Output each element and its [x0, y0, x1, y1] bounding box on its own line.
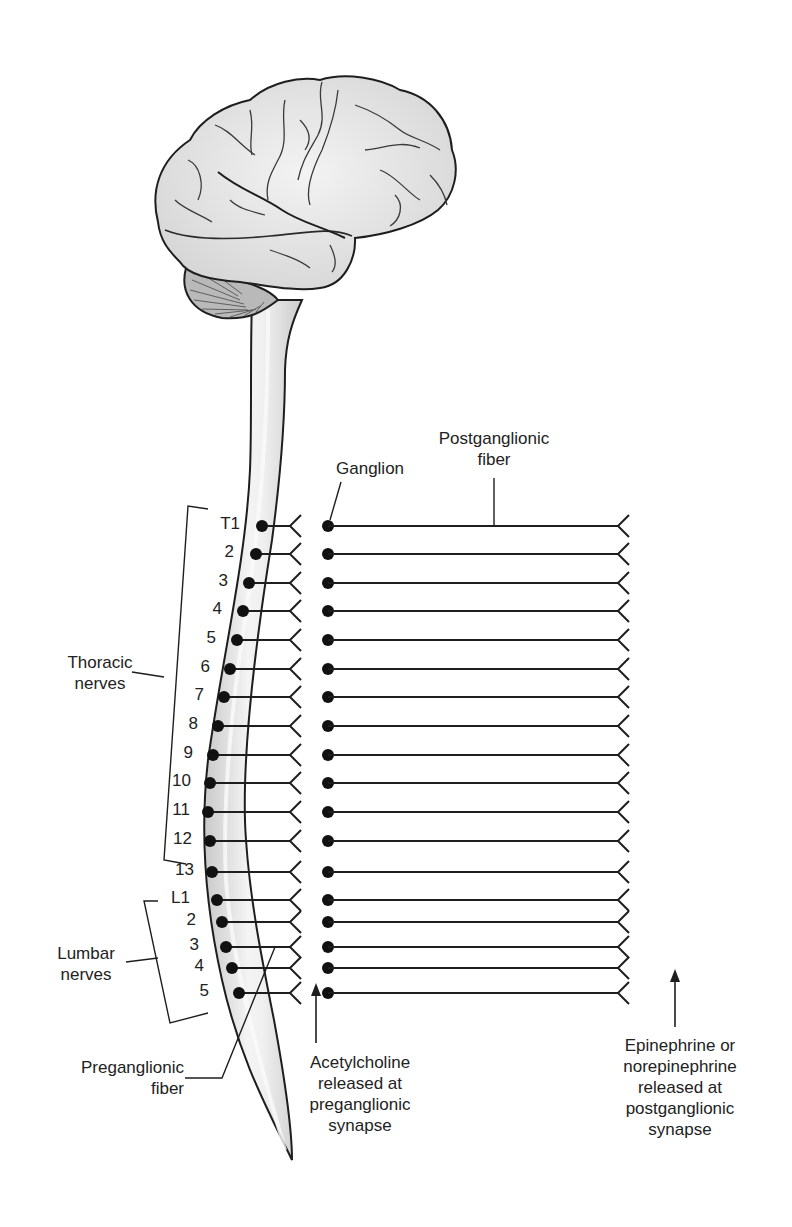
postganglionic-synapse-terminal — [618, 957, 629, 979]
segment-label-thoracic-t1: T1 — [210, 515, 240, 533]
postganglionic-synapse-terminal — [618, 543, 629, 565]
postganglionic-synapse-terminal — [618, 629, 629, 651]
epinephrine-label-line4: postganglionic — [623, 1098, 736, 1119]
postganglionic-synapse-terminal — [618, 658, 629, 680]
segment-label-thoracic-12: 12 — [162, 830, 192, 848]
epinephrine-label-line3: released at — [623, 1077, 736, 1098]
acetylcholine-label-line3: preganglionic — [309, 1094, 410, 1115]
sympathetic-diagram: Postganglionic fiber Ganglion Thoracic n… — [0, 0, 792, 1227]
postganglionic-synapse-terminal — [618, 600, 629, 622]
segment-label-lumbar-4: 4 — [174, 957, 204, 975]
epinephrine-label-line5: synapse — [623, 1119, 736, 1140]
preganglionic-synapse-terminal — [290, 830, 301, 852]
preganglionic-synapse-terminal — [290, 658, 301, 680]
preganglionic-label-line2: fiber — [40, 1078, 184, 1099]
nerve-row-thoracic-11 — [202, 801, 629, 823]
acetylcholine-label-line2: released at — [309, 1073, 410, 1094]
segment-label-thoracic-7: 7 — [174, 686, 204, 704]
nerve-row-thoracic-13 — [206, 861, 629, 883]
postganglionic-synapse-terminal — [618, 830, 629, 852]
ganglion-leader-line — [330, 482, 341, 520]
thoracic-label-line1: Thoracic — [67, 652, 132, 673]
lumbar-label-line1: Lumbar — [57, 943, 115, 964]
preganglionic-label-line1: Preganglionic — [40, 1057, 184, 1078]
cord-neuron-body — [218, 691, 230, 703]
segment-label-lumbar-3: 3 — [169, 936, 199, 954]
postganglionic-synapse-terminal — [618, 772, 629, 794]
cord-neuron-body — [243, 577, 255, 589]
nerve-row-thoracic-12 — [204, 830, 629, 852]
cord-neuron-body — [220, 941, 232, 953]
acetylcholine-label-line4: synapse — [309, 1115, 410, 1136]
preganglionic-synapse-terminal — [290, 629, 301, 651]
postganglionic-synapse-terminal — [618, 572, 629, 594]
nerve-row-lumbar-4 — [226, 957, 629, 979]
thoracic-nerves-label: Thoracic nerves — [67, 652, 132, 694]
cord-neuron-body — [202, 806, 214, 818]
cord-neuron-body — [204, 835, 216, 847]
preganglionic-synapse-terminal — [290, 715, 301, 737]
cord-neuron-body — [204, 777, 216, 789]
acetylcholine-label-line1: Acetylcholine — [309, 1052, 410, 1073]
lumbar-nerves-label: Lumbar nerves — [57, 943, 115, 985]
segment-label-thoracic-4: 4 — [192, 600, 222, 618]
nerve-row-thoracic-2 — [250, 543, 629, 565]
preganglionic-synapse-terminal — [290, 744, 301, 766]
epinephrine-arrow — [670, 969, 680, 1027]
nerve-row-thoracic-8 — [212, 715, 629, 737]
nerve-row-lumbar-2 — [216, 911, 629, 933]
nerve-row-thoracic-t1 — [256, 515, 629, 537]
segment-label-thoracic-5: 5 — [186, 629, 216, 647]
preganglionic-synapse-terminal — [290, 982, 301, 1004]
postganglionic-synapse-terminal — [618, 715, 629, 737]
nerve-row-thoracic-10 — [204, 772, 629, 794]
postganglionic-synapse-terminal — [618, 936, 629, 958]
preganglionic-synapse-terminal — [290, 957, 301, 979]
segment-label-thoracic-13: 13 — [164, 861, 194, 879]
preganglionic-synapse-terminal — [290, 936, 301, 958]
postganglionic-synapse-terminal — [618, 686, 629, 708]
cord-neuron-body — [206, 866, 218, 878]
postganglionic-synapse-terminal — [618, 861, 629, 883]
segment-label-thoracic-8: 8 — [168, 715, 198, 733]
nerve-rows — [202, 515, 629, 1004]
cord-neuron-body — [256, 520, 268, 532]
acetylcholine-label: Acetylcholine released at preganglionic … — [309, 1052, 410, 1136]
epinephrine-label: Epinephrine or norepinephrine released a… — [623, 1035, 736, 1140]
postganglionic-synapse-terminal — [618, 889, 629, 911]
epinephrine-label-line2: norepinephrine — [623, 1056, 736, 1077]
preganglionic-synapse-terminal — [290, 543, 301, 565]
nerve-row-thoracic-9 — [207, 744, 629, 766]
cord-neuron-body — [216, 916, 228, 928]
brain-illustration — [155, 76, 455, 289]
segment-label-thoracic-6: 6 — [180, 658, 210, 676]
preganglionic-synapse-terminal — [290, 772, 301, 794]
cord-neuron-body — [211, 894, 223, 906]
nerve-row-lumbar-3 — [220, 936, 629, 958]
postganglionic-synapse-terminal — [618, 982, 629, 1004]
segment-label-lumbar-l1: L1 — [160, 889, 190, 907]
segment-label-thoracic-2: 2 — [204, 543, 234, 561]
nerve-row-thoracic-5 — [231, 629, 629, 651]
postganglionic-label-line2: fiber — [439, 449, 550, 470]
cord-neuron-body — [231, 634, 243, 646]
postganglionic-synapse-terminal — [618, 911, 629, 933]
nerve-row-thoracic-7 — [218, 686, 629, 708]
nerve-row-thoracic-6 — [224, 658, 629, 680]
segment-label-thoracic-11: 11 — [160, 801, 190, 819]
cord-neuron-body — [237, 605, 249, 617]
cord-neuron-body — [233, 987, 245, 999]
nerve-row-lumbar-l1 — [211, 889, 629, 911]
preganglionic-synapse-terminal — [290, 686, 301, 708]
segment-label-lumbar-2: 2 — [166, 911, 196, 929]
cord-neuron-body — [207, 749, 219, 761]
segment-label-thoracic-9: 9 — [163, 744, 193, 762]
preganglionic-synapse-terminal — [290, 600, 301, 622]
preganglionic-synapse-terminal — [290, 572, 301, 594]
cord-neuron-body — [226, 962, 238, 974]
nerve-row-lumbar-5 — [233, 982, 629, 1004]
postganglionic-synapse-terminal — [618, 801, 629, 823]
cord-neuron-body — [224, 663, 236, 675]
postganglionic-synapse-terminal — [618, 744, 629, 766]
segment-label-thoracic-10: 10 — [161, 772, 191, 790]
